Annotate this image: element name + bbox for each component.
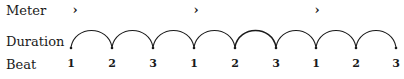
beat-dot (152, 47, 155, 50)
duration-arc (316, 31, 356, 48)
beat-number: 1 (312, 58, 320, 70)
beat-dot (70, 47, 73, 50)
duration-arc (112, 31, 153, 48)
beat-dot (275, 47, 278, 50)
duration-arc (153, 31, 194, 48)
beat-dot (395, 47, 398, 50)
duration-arcs (0, 0, 404, 79)
beat-dot (234, 47, 237, 50)
beat-number: 3 (392, 58, 400, 70)
beat-dot (111, 47, 114, 50)
beat-dot (355, 47, 358, 50)
beat-number: 1 (67, 58, 75, 70)
beat-number: 3 (149, 58, 157, 70)
beat-number: 1 (190, 58, 198, 70)
beat-number: 2 (231, 58, 239, 70)
duration-arc (194, 31, 235, 48)
duration-arc (276, 31, 316, 48)
beat-number: 3 (272, 58, 280, 70)
duration-arc (356, 31, 396, 48)
duration-arc (235, 31, 276, 48)
duration-arc (71, 31, 112, 48)
beat-dot (193, 47, 196, 50)
beat-dot (315, 47, 318, 50)
beat-number: 2 (352, 58, 360, 70)
beat-number: 2 (108, 58, 116, 70)
